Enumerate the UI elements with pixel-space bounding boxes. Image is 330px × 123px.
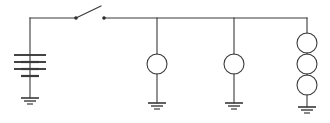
branch-3-device-circle-3 bbox=[297, 75, 317, 95]
branch-1-device-circle bbox=[147, 54, 167, 74]
branch-3-ground bbox=[298, 107, 316, 113]
branch-lamp-stack-3 bbox=[297, 18, 317, 113]
branch-3-device-circle-1 bbox=[297, 33, 317, 53]
branch-lamp-1 bbox=[147, 18, 167, 109]
branch-2-ground bbox=[225, 103, 243, 109]
battery-ground bbox=[21, 98, 39, 104]
branch-lamp-2 bbox=[224, 18, 244, 109]
circuit-diagram bbox=[0, 0, 330, 123]
knife-switch[interactable] bbox=[74, 6, 106, 20]
branch-2-device-circle bbox=[224, 54, 244, 74]
branch-3-device-circle-2 bbox=[297, 54, 317, 74]
battery-source bbox=[14, 18, 46, 104]
schematic-canvas bbox=[0, 0, 330, 123]
branch-1-ground bbox=[148, 103, 166, 109]
switch-contact-terminal bbox=[102, 16, 106, 20]
switch-blade[interactable] bbox=[76, 6, 101, 18]
